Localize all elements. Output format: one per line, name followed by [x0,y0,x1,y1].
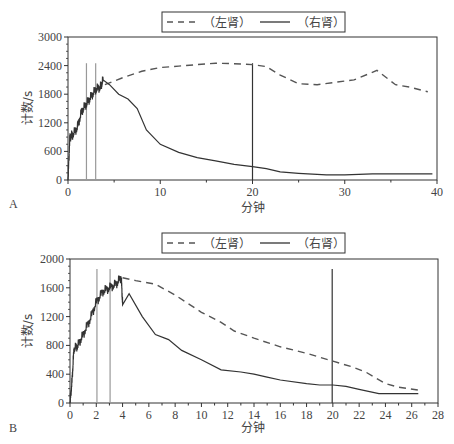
x-tick-label: 4 [120,408,126,422]
x-tick-label: 24 [379,408,391,422]
x-tick-label: 16 [274,408,286,422]
x-tick-label: 20 [247,185,259,199]
y-tick-label: 600 [44,144,62,158]
x-tick-label: 26 [406,408,418,422]
left-kidney-curve [123,278,419,390]
x-tick-label: 40 [431,185,443,199]
y-tick-label: 2000 [40,252,64,266]
y-tick-label: 0 [58,396,64,410]
y-tick-label: 1200 [38,116,62,130]
y-tick-label: 1200 [40,310,64,324]
panel-label-a: A [9,197,18,211]
x-tick-label: 18 [301,408,313,422]
y-tick-label: 800 [46,338,64,352]
y-axis-title: 计数/s [20,314,35,348]
x-tick-label: 6 [146,408,152,422]
y-tick-label: 2400 [38,59,62,73]
x-tick-label: 20 [327,408,339,422]
legend-left-kidney-label: （左肾） [203,15,251,30]
axis-ticks: 0246810121416182022242628040080012001600… [40,252,444,422]
x-tick-label: 12 [222,408,234,422]
legend-right-kidney-label: （右肾） [297,15,345,30]
y-tick-label: 400 [46,367,64,381]
legend-left-kidney-label: （左肾） [203,236,251,251]
data-series [68,63,432,180]
x-tick-label: 14 [248,408,260,422]
x-tick-label: 0 [65,185,71,199]
x-tick-label: 8 [172,408,178,422]
x-tick-label: 28 [432,408,444,422]
chart-panel-b: （左肾） （右肾） 024681012141618202224262804008… [9,233,444,435]
y-tick-label: 1800 [38,87,62,101]
vertical-markers [97,269,332,403]
chart-panel-a: （左肾） （右肾） 01020304006001200180024003000 … [9,12,443,215]
panel-label-b: B [9,421,17,435]
x-tick-label: 22 [353,408,365,422]
data-series [70,276,418,403]
left-kidney-curve [105,63,428,92]
legend-right-kidney-label: （右肾） [297,236,345,251]
x-tick-label: 10 [195,408,207,422]
x-axis-title: 分钟 [241,420,265,435]
right-kidney-curve [70,276,418,403]
x-tick-label: 0 [67,408,73,422]
x-tick-label: 2 [93,408,99,422]
y-axis-title: 计数/s [20,91,35,125]
x-tick-label: 30 [339,185,351,199]
y-tick-label: 1600 [40,281,64,295]
y-tick-label: 0 [56,173,62,187]
x-tick-label: 10 [154,185,166,199]
renal-scintigraphy-figure: （左肾） （右肾） 01020304006001200180024003000 … [0,0,454,444]
x-axis-title: 分钟 [241,200,265,215]
y-tick-label: 3000 [38,30,62,44]
right-kidney-curve [68,76,432,180]
vertical-markers [86,63,252,180]
